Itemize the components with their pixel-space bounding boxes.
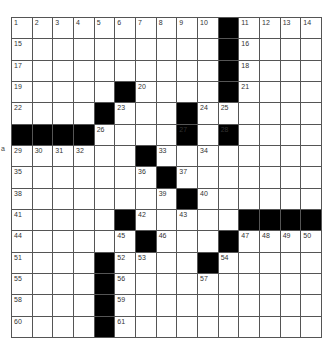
grid-cell[interactable]: [53, 231, 74, 252]
grid-cell[interactable]: [281, 317, 302, 338]
grid-cell[interactable]: 39: [157, 189, 178, 210]
grid-cell[interactable]: [281, 61, 302, 82]
grid-cell[interactable]: [157, 210, 178, 231]
grid-cell[interactable]: [198, 82, 219, 103]
grid-cell[interactable]: 21: [239, 82, 260, 103]
grid-cell[interactable]: [74, 103, 95, 124]
grid-cell[interactable]: 57: [198, 274, 219, 295]
grid-cell[interactable]: [239, 317, 260, 338]
grid-cell[interactable]: 55: [12, 274, 33, 295]
grid-cell[interactable]: [53, 61, 74, 82]
grid-cell[interactable]: 19: [12, 82, 33, 103]
grid-cell[interactable]: [136, 295, 157, 316]
grid-cell[interactable]: [177, 317, 198, 338]
grid-cell[interactable]: [239, 125, 260, 146]
grid-cell[interactable]: [53, 189, 74, 210]
grid-cell[interactable]: [115, 189, 136, 210]
grid-cell[interactable]: 61: [115, 317, 136, 338]
grid-cell[interactable]: [33, 189, 54, 210]
grid-cell[interactable]: [239, 167, 260, 188]
grid-cell[interactable]: [301, 146, 322, 167]
grid-cell[interactable]: [219, 167, 240, 188]
grid-cell[interactable]: 58: [12, 295, 33, 316]
grid-cell[interactable]: [33, 103, 54, 124]
grid-cell[interactable]: [260, 317, 281, 338]
grid-cell[interactable]: [219, 274, 240, 295]
grid-cell[interactable]: [157, 82, 178, 103]
grid-cell[interactable]: [281, 253, 302, 274]
grid-cell[interactable]: [53, 274, 74, 295]
grid-cell[interactable]: [260, 189, 281, 210]
grid-cell[interactable]: [95, 189, 116, 210]
grid-cell[interactable]: 15: [12, 39, 33, 60]
grid-cell[interactable]: [136, 61, 157, 82]
grid-cell[interactable]: [198, 61, 219, 82]
grid-cell[interactable]: [281, 146, 302, 167]
grid-cell[interactable]: 10: [198, 18, 219, 39]
grid-cell[interactable]: [177, 61, 198, 82]
grid-cell[interactable]: [198, 317, 219, 338]
grid-cell[interactable]: [260, 125, 281, 146]
grid-cell[interactable]: [33, 210, 54, 231]
grid-cell[interactable]: [33, 253, 54, 274]
grid-cell[interactable]: [177, 231, 198, 252]
grid-cell[interactable]: [281, 125, 302, 146]
grid-cell[interactable]: [239, 189, 260, 210]
grid-cell[interactable]: [177, 39, 198, 60]
grid-cell[interactable]: [33, 274, 54, 295]
grid-cell[interactable]: [33, 317, 54, 338]
grid-cell[interactable]: 8: [157, 18, 178, 39]
grid-cell[interactable]: 37: [177, 167, 198, 188]
grid-cell[interactable]: [33, 231, 54, 252]
grid-cell[interactable]: [53, 82, 74, 103]
grid-cell[interactable]: [177, 82, 198, 103]
grid-cell[interactable]: 5: [95, 18, 116, 39]
grid-cell[interactable]: 50: [301, 231, 322, 252]
grid-cell[interactable]: [260, 295, 281, 316]
grid-cell[interactable]: 42: [136, 210, 157, 231]
grid-cell[interactable]: 9: [177, 18, 198, 39]
grid-cell[interactable]: [53, 295, 74, 316]
grid-cell[interactable]: [136, 39, 157, 60]
grid-cell[interactable]: 43: [177, 210, 198, 231]
grid-cell[interactable]: [136, 189, 157, 210]
grid-cell[interactable]: 35: [12, 167, 33, 188]
grid-cell[interactable]: [198, 39, 219, 60]
grid-cell[interactable]: 1: [12, 18, 33, 39]
grid-cell[interactable]: [301, 82, 322, 103]
grid-cell[interactable]: [198, 295, 219, 316]
grid-cell[interactable]: 2: [33, 18, 54, 39]
grid-cell[interactable]: [157, 295, 178, 316]
grid-cell[interactable]: [74, 317, 95, 338]
grid-cell[interactable]: [301, 167, 322, 188]
grid-cell[interactable]: [33, 82, 54, 103]
grid-cell[interactable]: 60: [12, 317, 33, 338]
grid-cell[interactable]: [281, 39, 302, 60]
grid-cell[interactable]: [157, 253, 178, 274]
grid-cell[interactable]: 36: [136, 167, 157, 188]
grid-cell[interactable]: 38: [12, 189, 33, 210]
grid-cell[interactable]: [136, 103, 157, 124]
grid-cell[interactable]: [95, 146, 116, 167]
grid-cell[interactable]: 24: [198, 103, 219, 124]
grid-cell[interactable]: [260, 274, 281, 295]
grid-cell[interactable]: [115, 167, 136, 188]
grid-cell[interactable]: [74, 82, 95, 103]
grid-cell[interactable]: [260, 61, 281, 82]
grid-cell[interactable]: [260, 82, 281, 103]
grid-cell[interactable]: [177, 253, 198, 274]
grid-cell[interactable]: 12: [260, 18, 281, 39]
grid-cell[interactable]: [53, 210, 74, 231]
grid-cell[interactable]: [177, 295, 198, 316]
grid-cell[interactable]: 45: [115, 231, 136, 252]
grid-cell[interactable]: 46: [157, 231, 178, 252]
grid-cell[interactable]: [219, 295, 240, 316]
grid-cell[interactable]: [33, 39, 54, 60]
grid-cell[interactable]: 3: [53, 18, 74, 39]
grid-cell[interactable]: [301, 253, 322, 274]
grid-cell[interactable]: [301, 103, 322, 124]
grid-cell[interactable]: 34: [198, 146, 219, 167]
grid-cell[interactable]: 47: [239, 231, 260, 252]
grid-cell[interactable]: [219, 189, 240, 210]
grid-cell[interactable]: [53, 39, 74, 60]
